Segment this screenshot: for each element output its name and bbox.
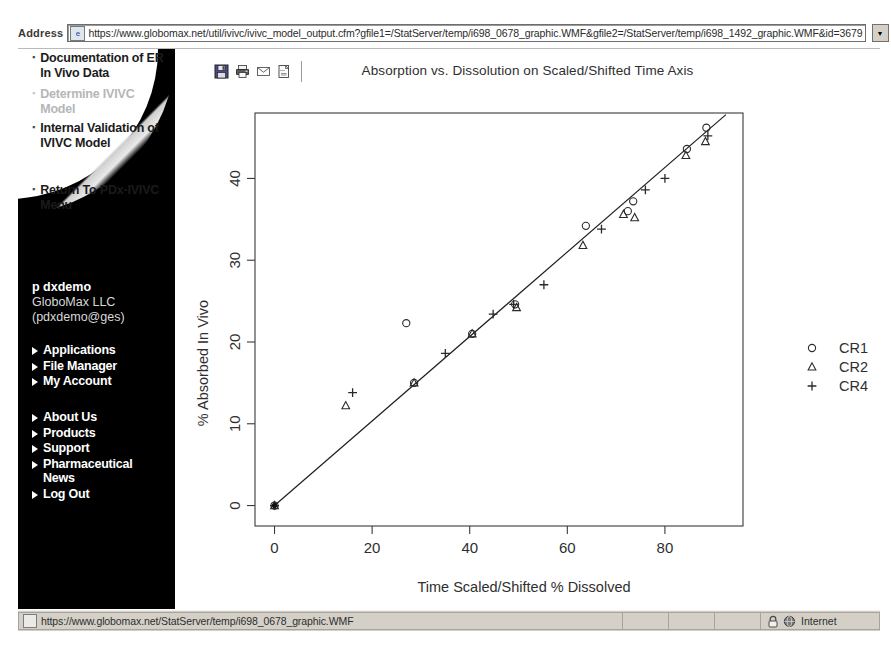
bullet-icon: ▪ [32, 87, 35, 100]
triangle-right-icon [32, 363, 38, 371]
page-viewport: ▪ Documentation of ER In Vivo Data ▪ Det… [18, 48, 880, 609]
sidebar-item-label: Return To PDx-IVIVC Menu [40, 183, 172, 212]
sidebar-item-label: Pharmaceutical News [43, 457, 161, 486]
sidebar-swoosh-tail [138, 239, 178, 285]
status-cell-3 [714, 612, 760, 630]
status-cell-2 [668, 612, 714, 630]
sidebar-item-label: Applications [43, 343, 116, 358]
status-zone-cell: Internet [760, 612, 880, 630]
user-email: (pdxdemo@ges) [32, 310, 172, 325]
sidebar-item-label: Log Out [43, 487, 90, 502]
status-cell-1 [622, 612, 668, 630]
plot-background [175, 95, 880, 609]
sidebar-item-products[interactable]: Products [32, 426, 172, 441]
sidebar-item-label: Documentation of ER In Vivo Data [40, 51, 172, 80]
chart-title: Absorption vs. Dissolution on Scaled/Shi… [175, 63, 880, 78]
content-area: Absorption vs. Dissolution on Scaled/Shi… [175, 49, 880, 609]
triangle-right-icon [32, 414, 38, 422]
y-tick-label: 20 [227, 334, 244, 351]
sidebar-item-my-account[interactable]: My Account [32, 374, 172, 389]
user-info: p dxdemo GloboMax LLC (pdxdemo@ges) [32, 280, 172, 325]
sidebar-item-label: My Account [43, 374, 111, 389]
address-bar: Address e https://www.globomax.net/util/… [18, 22, 880, 44]
status-url-cell: https://www.globomax.net/StatServer/temp… [18, 612, 622, 630]
triangle-right-icon [32, 461, 38, 469]
sidebar: ▪ Documentation of ER In Vivo Data ▪ Det… [18, 49, 175, 609]
sidebar-item-log-out[interactable]: Log Out [32, 487, 172, 502]
bullet-icon: ▪ [32, 183, 35, 196]
address-input[interactable]: e https://www.globomax.net/util/ivivc/iv… [67, 24, 865, 42]
sidebar-item-return-to-menu[interactable]: ▪ Return To PDx-IVIVC Menu [32, 183, 172, 212]
lock-icon [767, 615, 779, 628]
legend-label-cr4: CR4 [839, 378, 868, 394]
legend-label-cr1: CR1 [839, 340, 868, 356]
y-tick-label: 0 [227, 501, 244, 509]
sidebar-item-label: About Us [43, 410, 97, 425]
browser-window: Address e https://www.globomax.net/util/… [0, 0, 891, 667]
status-url-text: https://www.globomax.net/StatServer/temp… [41, 615, 353, 627]
sidebar-item-support[interactable]: Support [32, 441, 172, 456]
address-url-text: https://www.globomax.net/util/ivivc/iviv… [88, 27, 862, 39]
sidebar-item-documentation[interactable]: ▪ Documentation of ER In Vivo Data [32, 51, 172, 80]
sidebar-item-label: Support [43, 441, 90, 456]
page-icon: e [70, 26, 85, 41]
sidebar-item-determine-ivivc-model[interactable]: ▪ Determine IVIVC Model [32, 87, 172, 116]
triangle-right-icon [32, 445, 38, 453]
status-zone-text: Internet [801, 615, 837, 627]
triangle-right-icon [32, 347, 38, 355]
sidebar-item-about-us[interactable]: About Us [32, 410, 172, 425]
sidebar-item-file-manager[interactable]: File Manager [32, 359, 172, 374]
document-icon [23, 614, 37, 628]
x-tick-label: 60 [559, 539, 576, 556]
y-tick-label: 40 [227, 170, 244, 187]
y-tick-label: 10 [227, 415, 244, 432]
bullet-icon: ▪ [32, 121, 35, 134]
x-tick-label: 20 [364, 539, 381, 556]
sidebar-item-applications[interactable]: Applications [32, 343, 172, 358]
scatter-plot-svg: 020406080 010203040 CR1CR2CR4 Time Scale… [175, 95, 880, 609]
triangle-right-icon [32, 378, 38, 386]
sidebar-item-pharmaceutical-news[interactable]: Pharmaceutical News [32, 457, 172, 486]
legend-label-cr2: CR2 [839, 359, 868, 375]
x-tick-label: 0 [270, 539, 278, 556]
triangle-right-icon [32, 430, 38, 438]
sidebar-item-internal-validation[interactable]: ▪ Internal Validation of IVIVC Model [32, 121, 172, 150]
chevron-down-icon[interactable]: ▼ [872, 24, 889, 42]
status-bar: https://www.globomax.net/StatServer/temp… [18, 610, 880, 631]
address-label: Address [18, 27, 63, 39]
x-tick-label: 80 [657, 539, 674, 556]
chart-plot: 020406080 010203040 CR1CR2CR4 Time Scale… [175, 95, 880, 609]
x-axis-label: Time Scaled/Shifted % Dissolved [417, 579, 630, 595]
sidebar-item-label: Internal Validation of IVIVC Model [40, 121, 172, 150]
origin-point [272, 503, 277, 508]
user-name: p dxdemo [32, 280, 172, 295]
bullet-icon: ▪ [32, 51, 35, 64]
globe-icon [783, 615, 797, 628]
y-tick-label: 30 [227, 252, 244, 269]
sidebar-item-label: Products [43, 426, 96, 441]
y-axis-label: % Absorbed In Vivo [195, 300, 211, 426]
triangle-right-icon [32, 491, 38, 499]
x-tick-label: 40 [461, 539, 478, 556]
sidebar-item-label: Determine IVIVC Model [40, 87, 172, 116]
sidebar-item-label: File Manager [43, 359, 117, 374]
user-org: GloboMax LLC [32, 295, 172, 310]
